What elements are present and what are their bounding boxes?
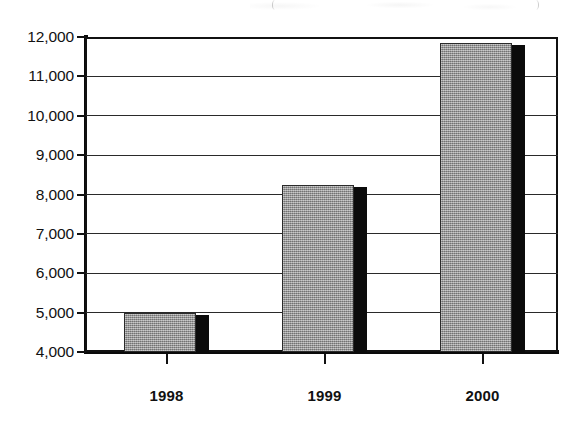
y-axis-tick xyxy=(77,312,86,314)
x-axis-tick xyxy=(482,354,484,364)
y-axis-tick xyxy=(77,75,86,77)
scan-artifact-band xyxy=(250,0,550,12)
y-axis-label: 6,000 xyxy=(6,264,74,282)
scan-artifact-paren-left xyxy=(272,0,278,10)
y-axis-tick xyxy=(77,233,86,235)
y-axis-label: 9,000 xyxy=(6,146,74,164)
bar-shadow xyxy=(196,315,209,352)
y-axis-tick xyxy=(77,194,86,196)
y-axis-tick xyxy=(77,272,86,274)
y-axis-tick xyxy=(77,36,86,38)
bar-shadow xyxy=(354,187,367,352)
y-axis-tick xyxy=(77,154,86,156)
y-axis-tick xyxy=(77,351,86,353)
y-axis-label: 11,000 xyxy=(6,67,74,85)
y-axis-label: 12,000 xyxy=(6,28,74,46)
y-axis-label: 4,000 xyxy=(6,343,74,361)
y-axis-label: 7,000 xyxy=(6,225,74,243)
x-axis-tick xyxy=(166,354,168,364)
y-axis-label: 8,000 xyxy=(6,186,74,204)
x-axis-label: 1999 xyxy=(307,387,341,404)
bar-chart: 12,00011,00010,0009,0008,0007,0006,0005,… xyxy=(0,0,581,435)
bar xyxy=(124,313,196,352)
y-axis-tick xyxy=(77,115,86,117)
bar xyxy=(282,185,354,352)
y-axis-label: 5,000 xyxy=(6,304,74,322)
scan-artifact-paren-right xyxy=(533,0,539,10)
bar xyxy=(440,43,512,352)
x-axis-label: 1998 xyxy=(149,387,183,404)
bar-shadow xyxy=(512,45,525,352)
x-axis-tick xyxy=(324,354,326,364)
x-axis-label: 2000 xyxy=(465,387,499,404)
y-axis-label: 10,000 xyxy=(6,107,74,125)
